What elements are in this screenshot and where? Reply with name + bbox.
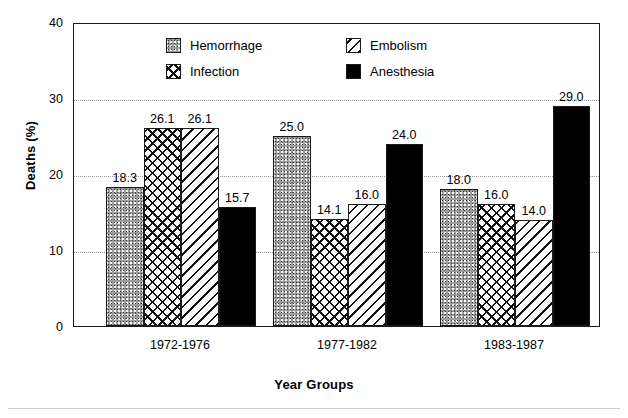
bar-value-label: 26.1 <box>175 112 225 126</box>
x-tick-label: 1983-1987 <box>434 338 594 352</box>
bar <box>273 136 311 326</box>
x-axis-title: Year Groups <box>0 377 628 392</box>
bar-value-label: 16.0 <box>342 188 392 202</box>
y-tick-label: 40 <box>17 16 63 30</box>
legend-item-infection: Infection <box>166 64 239 79</box>
bar-value-label: 15.7 <box>213 191 263 205</box>
bar-value-label: 14.1 <box>305 203 355 217</box>
bar <box>440 189 478 326</box>
bar-value-label: 14.0 <box>509 204 559 218</box>
legend-item-anesthesia: Anesthesia <box>346 64 434 79</box>
legend-label: Hemorrhage <box>190 38 262 53</box>
legend-item-hemorrhage: Hemorrhage <box>166 38 262 53</box>
legend-swatch-icon <box>346 38 361 53</box>
legend-label: Embolism <box>370 38 427 53</box>
bar <box>181 128 219 326</box>
bar-value-label: 18.3 <box>100 171 150 185</box>
legend-label: Anesthesia <box>370 64 434 79</box>
legend-swatch-icon <box>166 64 181 79</box>
bar-value-label: 25.0 <box>267 120 317 134</box>
chart-legend: HemorrhageInfectionEmbolismAnesthesia <box>166 38 496 88</box>
legend-item-embolism: Embolism <box>346 38 427 53</box>
footer-divider <box>8 408 620 409</box>
bar-value-label: 29.0 <box>547 90 597 104</box>
gridline <box>74 100 599 101</box>
bar <box>386 144 424 326</box>
x-tick-label: 1977-1982 <box>267 338 427 352</box>
bar <box>219 207 257 326</box>
legend-label: Infection <box>190 64 239 79</box>
bar <box>106 187 144 326</box>
y-tick-label: 10 <box>17 244 63 258</box>
y-tick-label: 0 <box>17 320 63 334</box>
bar <box>311 219 349 326</box>
bar-value-label: 18.0 <box>434 173 484 187</box>
bar-value-label: 24.0 <box>380 128 430 142</box>
bar-value-label: 16.0 <box>472 188 522 202</box>
bar <box>348 204 386 326</box>
legend-swatch-icon <box>166 38 181 53</box>
chart-figure: Deaths (%) 010203040 18.326.126.115.725.… <box>0 0 628 418</box>
bar <box>478 204 516 326</box>
bar <box>515 220 553 326</box>
x-tick-label: 1972-1976 <box>100 338 260 352</box>
bar <box>144 128 182 326</box>
legend-swatch-icon <box>346 64 361 79</box>
y-axis-title: Deaths (%) <box>23 96 38 216</box>
